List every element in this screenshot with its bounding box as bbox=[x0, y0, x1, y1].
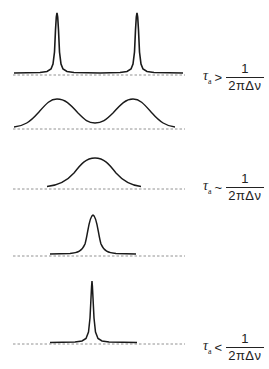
label-coalescence: τa ~ 1 2πΔν bbox=[203, 172, 264, 202]
panel-5-sharp-peak bbox=[13, 281, 185, 344]
relation-approx: ~ bbox=[215, 180, 223, 195]
panel-2-two-broad-peaks bbox=[13, 99, 185, 129]
tau-symbol: τa bbox=[203, 68, 212, 86]
numerator: 1 bbox=[241, 172, 248, 187]
tau-symbol: τa bbox=[203, 178, 212, 196]
relation-greater-than: > bbox=[215, 70, 223, 85]
spectrum-curve-2 bbox=[14, 99, 175, 127]
fraction: 1 2πΔν bbox=[226, 172, 263, 202]
numerator: 1 bbox=[241, 332, 248, 347]
numerator: 1 bbox=[241, 62, 248, 77]
spectrum-curve-3 bbox=[47, 158, 141, 187]
denominator: 2πΔν bbox=[226, 187, 263, 203]
relation-less-than: < bbox=[215, 340, 223, 355]
label-slow-exchange: τa > 1 2πΔν bbox=[203, 62, 264, 92]
tau-symbol: τa bbox=[203, 338, 212, 356]
panel-4-narrowing-peak bbox=[13, 215, 185, 256]
panel-3-coalesced-peak bbox=[13, 158, 185, 189]
spectrum-curve-4 bbox=[50, 215, 136, 254]
fraction: 1 2πΔν bbox=[226, 332, 263, 362]
label-fast-exchange: τa < 1 2πΔν bbox=[203, 332, 264, 362]
fraction: 1 2πΔν bbox=[226, 62, 263, 92]
panel-1-two-sharp-peaks bbox=[13, 13, 185, 75]
spectrum-curve-1 bbox=[14, 13, 183, 73]
spectrum-curve-5 bbox=[50, 281, 137, 343]
denominator: 2πΔν bbox=[226, 77, 263, 93]
denominator: 2πΔν bbox=[226, 347, 263, 363]
